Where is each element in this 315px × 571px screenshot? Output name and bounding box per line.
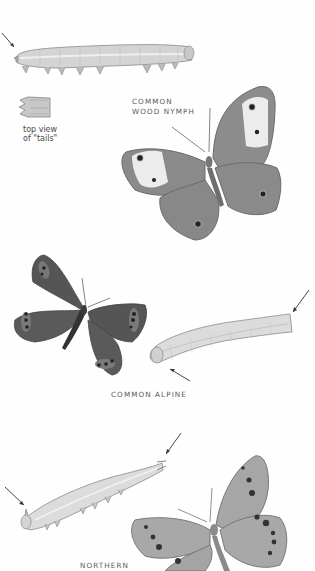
alpine-caterpillar	[150, 314, 292, 363]
wood-nymph-caterpillar	[14, 45, 194, 75]
northern-name: NORTHERN	[80, 561, 129, 570]
pointer-arrow-icon	[2, 33, 14, 47]
pointer-arrow-icon	[293, 290, 309, 312]
tails-top-view-figure	[19, 97, 50, 117]
tails-caption-line1: top view	[23, 125, 57, 134]
pointer-arrow-icon	[170, 369, 190, 381]
alpine-butterfly	[14, 255, 146, 375]
field-guide-page: COMMON WOOD NYMPH top view of "tails" CO…	[0, 0, 315, 571]
pointer-arrow-icon	[5, 487, 24, 505]
pointer-arrow-icon	[166, 433, 181, 454]
wood-nymph-name-line2: WOOD NYMPH	[132, 107, 195, 116]
wood-nymph-name-line1: COMMON	[132, 97, 173, 106]
tails-caption-line2: of "tails"	[23, 134, 57, 143]
alpine-name: COMMON ALPINE	[111, 390, 187, 399]
